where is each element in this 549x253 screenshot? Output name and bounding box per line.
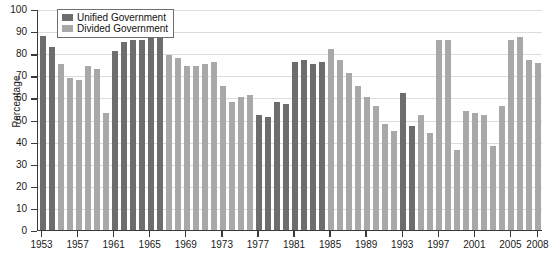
- x-axis-tick: [329, 231, 330, 237]
- bar-2000: [463, 111, 469, 230]
- y-axis-tick-label: 40: [0, 138, 27, 148]
- bar-1970: [193, 66, 199, 230]
- x-axis-tick: [113, 231, 114, 237]
- legend-item-divided: Divided Government: [62, 23, 168, 34]
- x-axis-tick: [185, 231, 186, 237]
- bar-1984: [319, 62, 325, 230]
- x-axis-tick-label: 1969: [175, 239, 197, 250]
- bar-1983: [310, 64, 316, 230]
- x-axis-tick: [41, 231, 42, 237]
- bar-1967: [166, 55, 172, 230]
- y-axis-tick-label: 20: [0, 182, 27, 192]
- bar-1976: [247, 95, 253, 230]
- bar-1971: [202, 64, 208, 230]
- bar-1995: [418, 115, 424, 230]
- bar-1960: [103, 113, 109, 230]
- bar-1954: [49, 47, 55, 230]
- y-axis-tick-label: 0: [0, 226, 27, 236]
- bar-2005: [508, 40, 514, 230]
- bar-1972: [211, 62, 217, 230]
- bar-2007: [526, 60, 532, 230]
- bar-1969: [184, 66, 190, 230]
- bar-1986: [337, 60, 343, 230]
- bar-1966: [157, 24, 163, 230]
- bar-1999: [454, 150, 460, 230]
- bar-2008: [535, 63, 541, 230]
- bar-1992: [391, 131, 397, 230]
- bar-1974: [229, 102, 235, 230]
- chart-legend: Unified Government Divided Government: [57, 9, 174, 38]
- y-axis-tick-label: 80: [0, 49, 27, 59]
- bar-1965: [148, 36, 154, 230]
- bar-1996: [427, 133, 433, 230]
- x-axis-tick-label: 2001: [463, 239, 485, 250]
- y-axis-tick-label: 60: [0, 93, 27, 103]
- x-axis-tick-label: 1957: [66, 239, 88, 250]
- y-axis-tick-label: 70: [0, 71, 27, 81]
- x-axis-tick-label: 2005: [499, 239, 521, 250]
- bar-1980: [283, 104, 289, 230]
- x-axis-tick-label: 1997: [427, 239, 449, 250]
- x-axis-tick-label: 1973: [211, 239, 233, 250]
- bar-1959: [94, 69, 100, 230]
- bar-1989: [364, 97, 370, 230]
- bar-1973: [220, 86, 226, 230]
- bar-1961: [112, 51, 118, 230]
- bar-1977: [256, 115, 262, 230]
- x-axis-tick: [474, 231, 475, 237]
- x-axis-tick-label: 1953: [30, 239, 52, 250]
- bar-1975: [238, 97, 244, 230]
- x-axis-tick: [510, 231, 511, 237]
- bar-1955: [58, 64, 64, 230]
- x-axis-tick: [402, 231, 403, 237]
- x-axis-tick-label: 1961: [103, 239, 125, 250]
- bar-1997: [436, 40, 442, 230]
- x-axis-tick: [293, 231, 294, 237]
- bar-1998: [445, 40, 451, 230]
- y-axis-tick-label: 10: [0, 204, 27, 214]
- x-axis-tick: [365, 231, 366, 237]
- legend-swatch-divided: [62, 25, 73, 32]
- bar-2006: [517, 37, 523, 230]
- bar-1994: [409, 126, 415, 230]
- legend-label-unified: Unified Government: [77, 12, 166, 23]
- y-axis-tick-label: 30: [0, 160, 27, 170]
- bar-1979: [274, 102, 280, 230]
- x-axis-tick-label: 1989: [355, 239, 377, 250]
- bar-1956: [67, 78, 73, 230]
- x-axis-tick-label: 1965: [139, 239, 161, 250]
- x-axis-tick-label: 1977: [247, 239, 269, 250]
- x-axis-tick: [221, 231, 222, 237]
- x-axis-tick-label: 1985: [319, 239, 341, 250]
- bar-1962: [121, 42, 127, 230]
- bar-series-container: [38, 10, 542, 230]
- bar-1963: [130, 40, 136, 230]
- x-axis-tick: [149, 231, 150, 237]
- bar-1957: [76, 80, 82, 230]
- bar-1993: [400, 93, 406, 230]
- plot-area: [37, 10, 542, 231]
- x-axis-tick: [438, 231, 439, 237]
- y-axis-tick-label: 90: [0, 27, 27, 37]
- bar-1958: [85, 66, 91, 230]
- x-axis-tick: [77, 231, 78, 237]
- bar-2003: [490, 146, 496, 230]
- x-axis-tick-label: 2008: [526, 239, 548, 250]
- x-axis-tick: [257, 231, 258, 237]
- bar-2002: [481, 115, 487, 230]
- bar-1953: [40, 36, 46, 230]
- x-axis-tick: [537, 231, 538, 237]
- bar-1990: [373, 106, 379, 230]
- bar-1968: [175, 58, 181, 230]
- y-axis-tick-label: 50: [0, 116, 27, 126]
- y-axis-tick: [31, 231, 37, 232]
- legend-swatch-unified: [62, 14, 73, 21]
- bar-1988: [355, 86, 361, 230]
- legend-item-unified: Unified Government: [62, 12, 168, 23]
- bar-1987: [346, 73, 352, 230]
- bar-1964: [139, 40, 145, 230]
- bar-1985: [328, 49, 334, 230]
- y-axis-tick-label: 100: [0, 5, 27, 15]
- bar-1978: [265, 117, 271, 230]
